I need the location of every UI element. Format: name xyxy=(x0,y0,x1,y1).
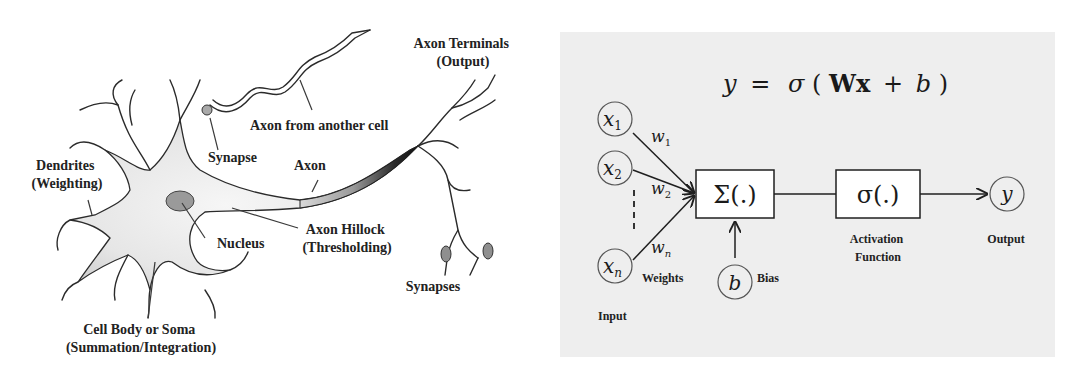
nucleus-shape xyxy=(166,191,194,211)
label-cell-body: Cell Body or Soma (Summation/Integration… xyxy=(66,322,216,356)
label-axon-from-another-cell: Axon from another cell xyxy=(250,118,388,133)
artificial-neuron-panel: y = σ ( Wx + b ) x1 x2 xn xyxy=(545,0,1087,378)
axon-from-another-cell-shape xyxy=(202,30,370,115)
axon-terminals-shape xyxy=(418,75,495,275)
summation-block: Σ(.) xyxy=(696,170,774,218)
biological-neuron-diagram: Axon Terminals (Output) Axon from anothe… xyxy=(0,0,545,378)
label-synapse: Synapse xyxy=(208,150,257,165)
label-axon: Axon xyxy=(294,158,326,173)
label-output: Output xyxy=(987,232,1024,246)
soma-shape xyxy=(70,120,418,290)
svg-text:Σ(.): Σ(.) xyxy=(713,181,756,209)
svg-text:σ(.): σ(.) xyxy=(857,181,900,209)
label-dendrites: Dendrites (Weighting) xyxy=(32,158,103,192)
label-input: Input xyxy=(598,309,627,323)
activation-block: σ(.) xyxy=(836,170,920,218)
label-synapses: Synapses xyxy=(406,279,461,294)
label-axon-hillock: Axon Hillock (Thresholding) xyxy=(302,222,392,256)
svg-text:y: y xyxy=(1000,182,1013,206)
label-nucleus: Nucleus xyxy=(217,236,265,251)
label-axon-terminals: Axon Terminals (Output) xyxy=(414,36,513,70)
svg-text:b: b xyxy=(729,271,742,295)
biological-neuron-panel: Axon Terminals (Output) Axon from anothe… xyxy=(0,0,545,378)
label-bias: Bias xyxy=(757,271,779,285)
artificial-neuron-diagram: y = σ ( Wx + b ) x1 x2 xn xyxy=(545,0,1087,378)
label-weights: Weights xyxy=(642,271,684,285)
